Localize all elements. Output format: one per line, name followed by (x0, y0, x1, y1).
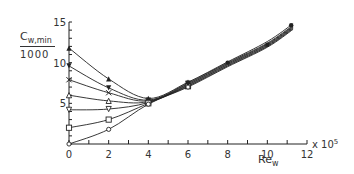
y-axis-label: Cw,min (20, 30, 52, 45)
x-tick-label: 6 (185, 149, 191, 160)
marker-filled-triangle-up (106, 76, 111, 81)
x-tick-label: 4 (145, 149, 151, 160)
marker-open-square (66, 125, 71, 130)
marker-open-circle (67, 142, 71, 146)
x-axis-multiplier: x 105 (312, 138, 338, 150)
marker-open-square (106, 117, 111, 122)
marker-open-circle (107, 127, 111, 131)
marker-filled-triangle-down (106, 85, 111, 90)
series-curve (69, 28, 293, 110)
y-tick-label: 5 (60, 98, 66, 109)
x-tick-label: 8 (224, 149, 230, 160)
marker-cluster (225, 60, 229, 64)
x-axis-label: Rew (258, 153, 278, 168)
chart-plot: 02468101251015 (0, 0, 354, 174)
marker-cluster (186, 81, 190, 85)
y-tick-label: 10 (53, 58, 66, 69)
marker-cluster (289, 23, 293, 27)
marker-open-circle (186, 85, 190, 89)
y-axis-label-divider (20, 46, 55, 47)
x-tick-label: 0 (66, 149, 72, 160)
y-axis-label-denominator: 1000 (20, 49, 49, 60)
series-curve (69, 29, 293, 128)
x-tick-label: 12 (301, 149, 314, 160)
series-curve (69, 27, 293, 103)
marker-filled-triangle-down (66, 63, 71, 68)
marker-open-circle (146, 102, 150, 106)
y-tick-label: 15 (53, 17, 66, 28)
marker-cluster (265, 43, 269, 47)
x-tick-label: 2 (105, 149, 111, 160)
